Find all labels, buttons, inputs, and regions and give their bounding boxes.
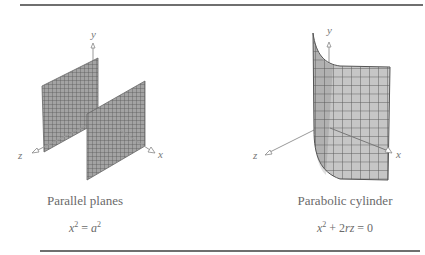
eq-exp: 2 xyxy=(97,220,101,229)
y-axis-arrow-icon xyxy=(91,43,95,48)
z-axis-line xyxy=(270,130,314,152)
z-axis-arrow-icon xyxy=(265,150,272,155)
parabolic-cylinder-figure: y z x xyxy=(252,24,401,185)
y-axis-label: y xyxy=(90,28,96,40)
z-axis-arrow-icon xyxy=(32,148,39,153)
caption-parabolic-cylinder: Parabolic cylinder xyxy=(280,193,410,209)
caption-parallel-planes: Parallel planes xyxy=(30,193,140,209)
x-axis-arrow-icon xyxy=(148,147,155,153)
equation-parabolic-cylinder: x2 + 2rz = 0 xyxy=(295,220,395,236)
eq-equals: = xyxy=(354,221,367,235)
z-axis-label: z xyxy=(17,149,23,161)
z-axis-label: z xyxy=(252,149,258,161)
eq-rhs: 0 xyxy=(367,221,373,235)
eq-plus: + 2 xyxy=(326,221,345,235)
y-axis-label: y xyxy=(326,24,332,36)
equation-parallel-planes: x2 = a2 xyxy=(55,220,115,236)
parallel-planes-figure: y z x xyxy=(17,28,163,180)
x-axis-label: x xyxy=(395,148,401,160)
x-axis-label: x xyxy=(157,148,163,160)
y-axis-arrow-icon xyxy=(327,42,331,47)
eq-equals: = xyxy=(78,221,91,235)
figure-canvas: y z x y z x xyxy=(0,0,425,255)
eq-var: rz xyxy=(345,221,354,235)
